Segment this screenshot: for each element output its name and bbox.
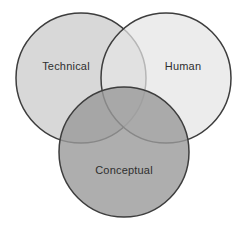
venn-circle-conceptual[interactable] xyxy=(59,87,189,217)
venn-label-conceptual: Conceptual xyxy=(95,164,153,176)
venn-diagram-canvas: Technical Human Conceptual xyxy=(0,0,248,236)
venn-diagram-figure: Technical Human Conceptual xyxy=(0,0,248,236)
venn-label-human: Human xyxy=(165,60,201,72)
venn-label-technical: Technical xyxy=(42,60,90,72)
